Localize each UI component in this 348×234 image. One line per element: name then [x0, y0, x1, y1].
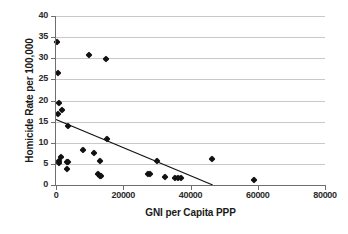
- y-axis-line: [55, 16, 56, 186]
- y-axis-title: Homicide Rate per 100,000: [24, 16, 35, 186]
- y-tick-mark: [51, 37, 55, 38]
- scatter-chart: 0510152025303540 020000400006000080000 G…: [0, 0, 348, 234]
- y-tick-mark: [51, 122, 55, 123]
- y-tick-mark: [51, 143, 55, 144]
- y-tick-mark: [51, 79, 55, 80]
- x-tick-label: 60000: [231, 190, 285, 200]
- y-tick-mark: [51, 101, 55, 102]
- y-tick-mark: [51, 164, 55, 165]
- x-tick-label: 0: [29, 190, 83, 200]
- x-tick-label: 40000: [164, 190, 218, 200]
- y-tick-mark: [51, 58, 55, 59]
- plot-area: [56, 16, 325, 185]
- trendline-segment: [56, 120, 213, 185]
- x-axis-title: GNI per Capita PPP: [56, 207, 325, 218]
- y-tick-mark: [51, 16, 55, 17]
- x-tick-label: 80000: [298, 190, 348, 200]
- y-tick-mark: [51, 185, 55, 186]
- x-tick-label: 20000: [96, 190, 150, 200]
